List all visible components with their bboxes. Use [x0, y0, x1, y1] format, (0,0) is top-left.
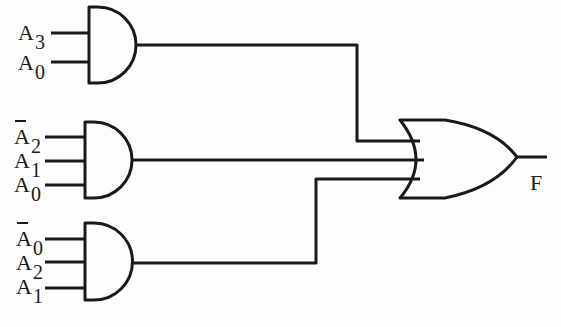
label-g2-in3: A0	[14, 174, 40, 196]
wire-g3-to-or	[132, 179, 420, 263]
logic-circuit-diagram: A3 A0 A2 A1 A0 A0 A2 A1 F	[0, 0, 561, 327]
and-gate-2	[85, 122, 132, 198]
label-g3-in2: A2	[16, 252, 42, 274]
label-g2-in2: A1	[14, 150, 40, 172]
negation-bar	[15, 120, 26, 122]
and-gate-1	[89, 7, 136, 83]
label-g1-in1: A3	[18, 22, 44, 44]
circuit-drawing	[0, 0, 561, 327]
label-g1-in2: A0	[18, 52, 44, 74]
label-output-f: F	[530, 172, 542, 194]
and-gate-3	[85, 223, 133, 300]
wire-g1-to-or	[136, 45, 420, 141]
label-g3-in1-negated: A0	[16, 228, 42, 250]
negation-bar	[17, 222, 28, 224]
label-g2-in1-negated: A2	[14, 126, 40, 148]
label-g3-in3: A1	[16, 276, 42, 298]
